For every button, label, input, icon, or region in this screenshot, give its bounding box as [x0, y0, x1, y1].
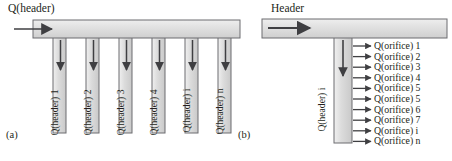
- panel-b-orifice-arrows: [353, 46, 371, 141]
- panel-a-inlet-label: Q(header): [8, 3, 55, 15]
- flow-distribution-figure: Q(header) Q(header) 1 Q(header) 2 Q(head…: [0, 0, 452, 161]
- downcomer-label-n: Q(header) n: [215, 89, 225, 135]
- downcomer-label-i: Q(header) i: [182, 89, 192, 133]
- orifice-label-7: Q(orifice) 6: [374, 105, 421, 115]
- panel-a-flow-arrows: [61, 40, 226, 70]
- orifice-label-4: Q(orifice) 4: [374, 73, 421, 83]
- downcomer-label-1: Q(header) 1: [50, 90, 60, 136]
- orifice-label-3: Q(orifice) 3: [374, 62, 421, 72]
- orifice-label-5: Q(orifice) 5: [374, 83, 421, 93]
- panel-a-header-bar: [33, 20, 240, 38]
- orifice-label-2: Q(orifice) 2: [374, 52, 421, 62]
- panel-a-drawing: [14, 20, 240, 133]
- orifice-label-8: Q(orifice) 7: [374, 115, 421, 125]
- panel-a-downcomers: [53, 36, 231, 133]
- orifice-label-9: Q(orifice) i: [374, 126, 418, 136]
- panel-a-caption: (a): [6, 130, 18, 141]
- downcomer-label-2: Q(header) 2: [83, 90, 93, 136]
- panel-b-downcomer-label: Q(header) i: [317, 88, 327, 132]
- panel-b-header-label: Header: [271, 3, 304, 15]
- orifice-label-1: Q(orifice) 1: [374, 41, 421, 51]
- panel-b-caption: (b): [238, 130, 250, 141]
- downcomer-label-4: Q(header) 4: [149, 90, 159, 136]
- orifice-label-6: Q(orifice) 5: [374, 94, 421, 104]
- downcomer-label-3: Q(header) 3: [116, 90, 126, 136]
- orifice-label-10: Q(orifice) n: [374, 136, 421, 146]
